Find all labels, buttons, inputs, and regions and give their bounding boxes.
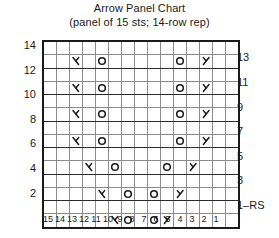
empty-cell	[148, 42, 160, 54]
chart-row	[43, 68, 239, 81]
empty-cell	[226, 161, 238, 173]
chart-cell	[200, 201, 213, 214]
empty-cell	[148, 55, 160, 67]
empty-cell	[44, 69, 56, 81]
chart-cell	[148, 201, 161, 214]
chart-cell	[83, 55, 96, 68]
empty-cell	[109, 69, 121, 81]
chart-cell	[96, 148, 109, 161]
ssk-icon	[200, 82, 212, 94]
chart-cell	[57, 134, 70, 147]
chart-cell	[161, 121, 174, 134]
empty-cell	[200, 42, 212, 54]
empty-cell	[161, 55, 173, 67]
k2tog-icon	[83, 161, 95, 173]
empty-cell	[161, 201, 173, 213]
empty-cell	[174, 42, 186, 54]
chart-cell	[109, 148, 122, 161]
chart-cell	[174, 121, 187, 134]
chart-cell	[96, 187, 109, 200]
empty-cell	[161, 69, 173, 81]
empty-cell	[135, 55, 147, 67]
empty-cell	[174, 122, 186, 134]
yarn-over-icon	[174, 135, 186, 147]
empty-cell	[226, 135, 238, 147]
ssk-icon	[200, 55, 212, 67]
chart-cell	[200, 121, 213, 134]
chart-cell	[43, 121, 57, 134]
empty-cell	[109, 122, 121, 134]
column-label-13: 13	[66, 214, 78, 225]
chart-cell	[213, 187, 226, 200]
chart-cell	[109, 108, 122, 121]
chart-cell	[148, 95, 161, 108]
chart-cell	[213, 55, 226, 68]
chart-cell	[96, 55, 109, 68]
empty-cell	[213, 55, 225, 67]
empty-cell	[83, 188, 95, 200]
empty-cell	[226, 148, 238, 160]
chart-cell	[174, 81, 187, 94]
empty-cell	[200, 161, 212, 173]
chart-cell	[122, 108, 135, 121]
column-label-14: 14	[54, 214, 66, 225]
chart-cell	[148, 148, 161, 161]
column-label-6: 6	[150, 214, 162, 225]
chart-row	[43, 95, 239, 108]
chart-cell	[200, 68, 213, 81]
chart-cell	[43, 187, 57, 200]
empty-cell	[122, 108, 134, 120]
chart-cell	[57, 121, 70, 134]
empty-cell	[122, 175, 134, 187]
empty-cell	[174, 201, 186, 213]
empty-cell	[148, 108, 160, 120]
chart-row	[43, 187, 239, 200]
chart-grid-wrap	[42, 40, 222, 212]
chart-subtitle: (panel of 15 sts; 14-row rep)	[0, 15, 279, 29]
empty-cell	[57, 188, 69, 200]
chart-cell	[122, 148, 135, 161]
chart-row	[43, 81, 239, 94]
chart-cell	[109, 161, 122, 174]
empty-cell	[70, 69, 82, 81]
chart-cell	[200, 134, 213, 147]
chart-cell	[213, 81, 226, 94]
chart-cell	[148, 121, 161, 134]
empty-cell	[213, 42, 225, 54]
empty-cell	[122, 148, 134, 160]
chart-cell	[213, 201, 226, 214]
column-label-12: 12	[78, 214, 90, 225]
empty-cell	[109, 201, 121, 213]
empty-cell	[96, 122, 108, 134]
chart-cell	[70, 55, 83, 68]
row-label-left-8: 8	[30, 114, 36, 125]
empty-cell	[83, 135, 95, 147]
empty-cell	[200, 148, 212, 160]
chart-cell	[226, 81, 240, 94]
empty-cell	[122, 42, 134, 54]
empty-cell	[200, 95, 212, 107]
empty-cell	[44, 42, 56, 54]
empty-cell	[96, 148, 108, 160]
chart-cell	[122, 187, 135, 200]
k2tog-icon	[70, 82, 82, 94]
empty-cell	[213, 148, 225, 160]
empty-cell	[44, 55, 56, 67]
chart-cell	[109, 121, 122, 134]
empty-cell	[135, 69, 147, 81]
title-block: Arrow Panel Chart (panel of 15 sts; 14-r…	[0, 2, 279, 29]
column-label-10: 10	[102, 214, 114, 225]
chart-cell	[70, 95, 83, 108]
chart-cell	[174, 55, 187, 68]
chart-cell	[161, 161, 174, 174]
chart-cell	[43, 148, 57, 161]
chart-cell	[161, 201, 174, 214]
chart-row	[43, 161, 239, 174]
empty-cell	[135, 108, 147, 120]
empty-cell	[109, 95, 121, 107]
chart-cell	[109, 134, 122, 147]
chart-cell	[161, 148, 174, 161]
chart-cell	[226, 214, 240, 228]
chart-cell	[122, 134, 135, 147]
column-label-8: 8	[126, 214, 138, 225]
